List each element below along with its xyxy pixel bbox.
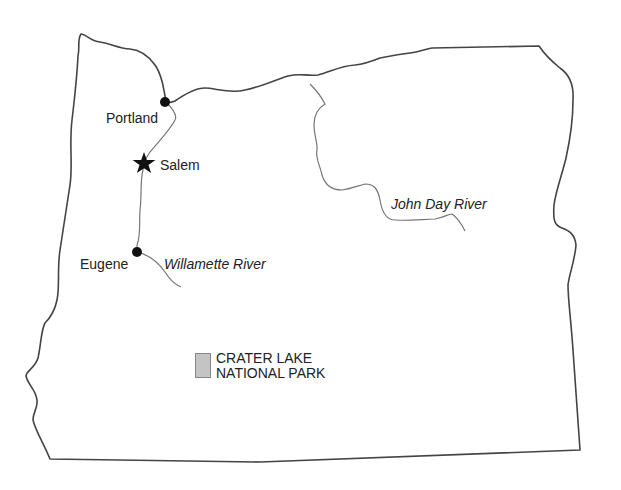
park-area-swatch [195,353,211,378]
state-border [26,34,580,462]
oregon-map [0,0,621,490]
park-label-line2: NATIONAL PARK [216,366,325,381]
city-label-eugene: Eugene [80,256,128,272]
river-label-willamette: Willamette River [164,256,266,272]
river-label-john-day: John Day River [391,196,487,212]
city-label-portland: Portland [106,110,158,126]
park-label: CRATER LAKE NATIONAL PARK [216,351,325,381]
city-marker-eugene [132,247,142,257]
capital-star-icon [133,152,156,173]
park-label-line1: CRATER LAKE [216,351,325,366]
city-marker-portland [160,97,170,107]
city-label-salem: Salem [160,157,200,173]
